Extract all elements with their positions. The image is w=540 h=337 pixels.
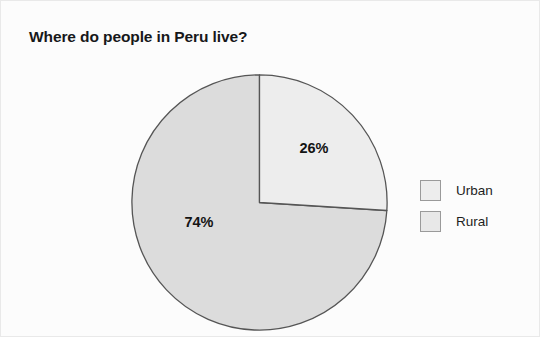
chart-legend: Urban Rural <box>420 180 530 242</box>
legend-item-rural[interactable]: Rural <box>420 211 530 232</box>
legend-item-urban[interactable]: Urban <box>420 180 530 201</box>
legend-swatch-urban-icon <box>420 180 441 201</box>
pie-chart: 26% 74% <box>131 74 388 331</box>
legend-swatch-rural-icon <box>420 211 441 232</box>
chart-canvas: Where do people in Peru live? 26% 74% Ur… <box>0 0 540 337</box>
pie-label-urban: 26% <box>299 140 328 156</box>
chart-title: Where do people in Peru live? <box>29 28 247 46</box>
legend-label-rural: Rural <box>456 215 488 229</box>
pie-svg: 26% 74% <box>131 74 388 331</box>
legend-label-urban: Urban <box>456 184 493 198</box>
pie-label-rural: 74% <box>184 214 213 230</box>
